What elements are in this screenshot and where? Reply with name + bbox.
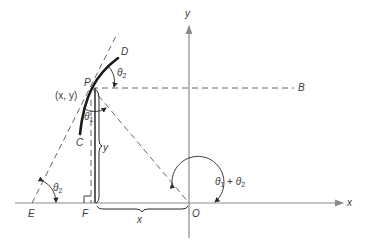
point-f-label: F (82, 209, 88, 219)
point-p-label: P (84, 78, 91, 88)
diagram-graphics (0, 0, 368, 251)
point-c-label: C (76, 138, 83, 148)
angle-arc-theta2-d (107, 65, 115, 87)
dashed-tangent-line-e (32, 36, 116, 203)
length-x-label: x (137, 215, 142, 225)
right-angle-mark (84, 196, 91, 203)
origin-label: O (192, 209, 200, 219)
angle-theta1-plus-theta2-label: θ1 + θ2 (215, 177, 245, 188)
subscript-2: 2 (122, 72, 126, 79)
point-d-label: D (121, 47, 128, 57)
point-e-label: E (28, 209, 35, 219)
brace-x (97, 206, 188, 212)
subscript-1: 1 (89, 116, 93, 123)
point-p-coords-label: (x, y) (55, 91, 77, 101)
angle-theta1-p-label: θ1 (84, 112, 93, 123)
y-axis-label: y (185, 9, 190, 19)
length-y-label: y (103, 143, 108, 153)
subscript-2: 2 (58, 187, 62, 194)
x-axis-label: x (347, 198, 352, 208)
angle-theta2-e-label: θ2 (53, 183, 62, 194)
angle-theta2-d-label: θ2 (117, 68, 126, 79)
kinematics-diagram: y x O P (x, y) B C D E F y x θ2 θ2 θ1 θ1… (0, 0, 368, 251)
plus-sign: + (224, 176, 235, 187)
point-b-label: B (298, 83, 305, 93)
brace-y (96, 90, 102, 203)
subscript-2: 2 (241, 181, 245, 188)
